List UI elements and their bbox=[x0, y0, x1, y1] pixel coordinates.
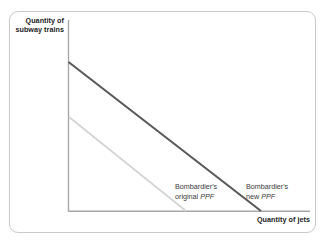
y-axis-label: Quantity ofsubway trains bbox=[0, 16, 64, 35]
new-ppf-label-prefix: new bbox=[246, 192, 261, 201]
original-ppf-label: Bombardier's original PPF bbox=[175, 182, 217, 201]
original-ppf-label-line2: original PPF bbox=[175, 192, 217, 202]
new-ppf-label-line1: Bombardier's bbox=[246, 182, 288, 192]
y-axis-label-line2: subway trains bbox=[15, 25, 64, 34]
original-ppf-line bbox=[69, 117, 186, 211]
ppf-figure: Quantity ofsubway trains Quantity of jet… bbox=[0, 0, 324, 243]
x-axis-label: Quantity of jets bbox=[200, 215, 310, 224]
original-ppf-label-prefix: original bbox=[175, 192, 200, 201]
original-ppf-label-line1: Bombardier's bbox=[175, 182, 217, 192]
y-axis-label-line1: Quantity of bbox=[26, 16, 64, 25]
plot-canvas bbox=[0, 0, 324, 243]
new-ppf-label: Bombardier's new PPF bbox=[246, 182, 288, 201]
new-ppf-line bbox=[69, 62, 262, 211]
new-ppf-label-line2: new PPF bbox=[246, 192, 288, 202]
original-ppf-label-abbrev: PPF bbox=[200, 192, 214, 201]
new-ppf-label-abbrev: PPF bbox=[261, 192, 275, 201]
